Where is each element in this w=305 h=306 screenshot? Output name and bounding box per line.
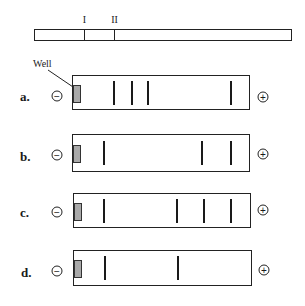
- band: [103, 141, 105, 165]
- well: [74, 203, 82, 221]
- band: [103, 199, 105, 223]
- band: [201, 141, 203, 165]
- negative-electrode-icon: −: [52, 207, 63, 218]
- well: [74, 260, 82, 278]
- negative-electrode-icon: −: [52, 150, 63, 161]
- negative-electrode-icon: −: [52, 91, 63, 102]
- band: [113, 81, 115, 105]
- well: [73, 145, 81, 163]
- row-label: c.: [20, 205, 29, 221]
- gel-box: [73, 250, 252, 286]
- negative-electrode-icon: −: [52, 266, 63, 277]
- positive-electrode-icon: +: [259, 265, 270, 276]
- band: [230, 141, 232, 165]
- row-label: a.: [20, 89, 30, 105]
- band: [147, 81, 149, 105]
- gel-box: [72, 134, 250, 172]
- band: [177, 256, 179, 280]
- band: [203, 199, 205, 223]
- band: [176, 199, 178, 223]
- band: [104, 256, 106, 280]
- band: [230, 199, 232, 223]
- positive-electrode-icon: +: [258, 92, 269, 103]
- positive-electrode-icon: +: [258, 205, 269, 216]
- gel-box: [72, 75, 250, 110]
- gel-box: [73, 193, 251, 228]
- row-label: b.: [20, 149, 30, 165]
- positive-electrode-icon: +: [258, 149, 269, 160]
- well: [73, 85, 81, 103]
- band: [230, 81, 232, 105]
- row-label: d.: [21, 265, 31, 281]
- band: [131, 81, 133, 105]
